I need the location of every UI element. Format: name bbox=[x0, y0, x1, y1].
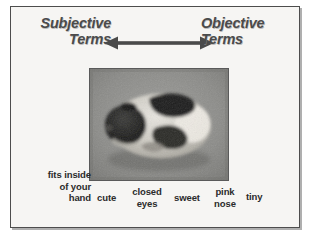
label-pink-nose: pink nose bbox=[210, 186, 240, 209]
label-line: cute bbox=[97, 192, 116, 204]
label-fits-inside-of-your-hand: fits inside of your hand bbox=[27, 169, 91, 204]
guinea-pig-photo bbox=[89, 68, 229, 181]
label-line: of your bbox=[27, 181, 91, 193]
axis-label-objective: Objective Terms bbox=[201, 15, 297, 47]
descriptor-label-group: fits inside of your hand cute closed eye… bbox=[11, 169, 299, 225]
slide-canvas: Subjective Terms Objective Terms bbox=[0, 0, 318, 242]
label-line: sweet bbox=[174, 192, 200, 204]
label-line: pink bbox=[210, 186, 240, 198]
double-headed-arrow-icon bbox=[104, 35, 214, 51]
label-sweet: sweet bbox=[174, 192, 200, 204]
label-line: tiny bbox=[246, 191, 263, 203]
label-tiny: tiny bbox=[246, 191, 263, 203]
axis-label-objective-line1: Objective bbox=[201, 15, 297, 31]
label-closed-eyes: closed eyes bbox=[127, 186, 167, 209]
label-line: eyes bbox=[127, 198, 167, 210]
subjective-objective-axis: Subjective Terms Objective Terms bbox=[11, 11, 299, 59]
label-line: fits inside bbox=[27, 169, 91, 181]
axis-label-objective-line2: Terms bbox=[201, 31, 297, 47]
axis-label-subjective-line2: Terms bbox=[15, 31, 111, 47]
slide-card: Subjective Terms Objective Terms bbox=[10, 6, 300, 228]
label-line: closed bbox=[127, 186, 167, 198]
label-line: nose bbox=[210, 198, 240, 210]
axis-label-subjective-line1: Subjective bbox=[15, 15, 111, 31]
label-cute: cute bbox=[97, 192, 116, 204]
label-line: hand bbox=[27, 192, 91, 204]
axis-label-subjective: Subjective Terms bbox=[15, 15, 111, 47]
